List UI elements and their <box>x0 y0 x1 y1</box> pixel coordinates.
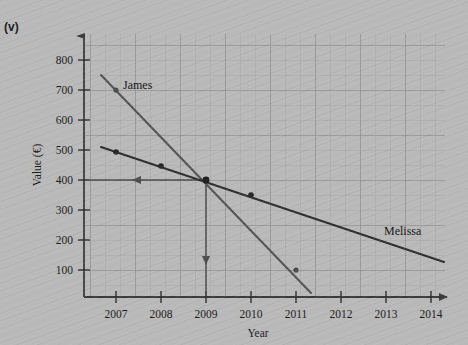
y-tick-label: 300 <box>56 204 74 216</box>
y-tick-label: 400 <box>56 174 74 186</box>
james-series-label: James <box>123 78 153 92</box>
x-axis-title: Year <box>247 327 268 339</box>
x-tick-label: 2008 <box>150 308 173 320</box>
chart-svg: 800 700 600 500 400 300 200 100 2007 200… <box>0 0 468 345</box>
y-tick-label: 500 <box>56 144 74 156</box>
y-tick-label: 100 <box>56 264 74 276</box>
y-tick-label: 800 <box>56 54 74 66</box>
y-tick-label: 600 <box>56 114 74 126</box>
james-data-point <box>293 267 298 272</box>
x-tick-label: 2007 <box>105 308 128 320</box>
x-axis-tick-labels: 2007 2008 2009 2010 2011 2012 2013 2014 <box>105 308 443 320</box>
x-tick-label: 2012 <box>330 308 353 320</box>
intersection-point <box>203 177 210 184</box>
melissa-data-point <box>158 163 164 169</box>
x-tick-label: 2014 <box>420 308 443 320</box>
line-chart: 800 700 600 500 400 300 200 100 2007 200… <box>0 0 468 345</box>
y-axis-title: Value (€) <box>31 144 44 187</box>
y-axis-tick-labels: 800 700 600 500 400 300 200 100 <box>56 54 74 276</box>
melissa-data-point <box>113 149 119 155</box>
melissa-series-label: Melissa <box>384 224 422 238</box>
x-tick-label: 2009 <box>195 308 218 320</box>
y-tick-label: 700 <box>56 84 74 96</box>
melissa-data-point <box>248 192 254 198</box>
x-tick-label: 2011 <box>285 308 308 320</box>
y-tick-label: 200 <box>56 234 74 246</box>
x-tick-label: 2010 <box>240 308 263 320</box>
x-tick-label: 2013 <box>375 308 398 320</box>
james-data-point <box>113 87 118 92</box>
grid-lines <box>84 34 445 297</box>
